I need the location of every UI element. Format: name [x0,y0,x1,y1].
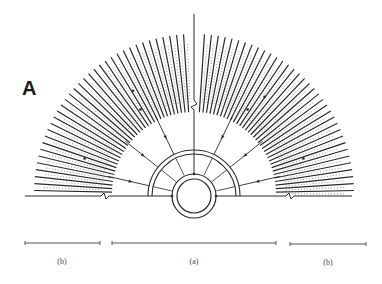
panel-label: A [22,77,36,100]
scale-label-left: (b) [57,257,66,266]
inner-ring [171,173,218,218]
diagram-canvas [0,0,382,284]
scale-label-center: (a) [190,257,199,266]
scale-label-right: (b) [323,258,332,267]
scale-bars [25,241,366,246]
